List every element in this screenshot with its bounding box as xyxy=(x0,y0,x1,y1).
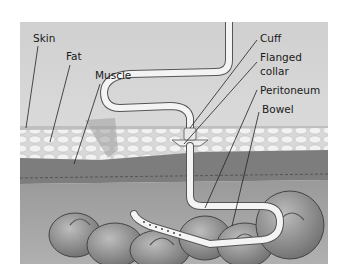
label-cuff: Cuff xyxy=(260,32,282,44)
label-fat: Fat xyxy=(66,50,82,62)
label-bowel: Bowel xyxy=(262,103,294,115)
catheter-diagram: Skin Fat Muscle Cuff Flanged collar Peri… xyxy=(0,0,345,277)
label-muscle: Muscle xyxy=(95,69,131,81)
label-flanged-collar-line2: collar xyxy=(260,65,289,77)
label-flanged-collar-line1: Flanged xyxy=(260,51,302,63)
label-peritoneum: Peritoneum xyxy=(260,84,320,96)
cuff xyxy=(184,128,196,140)
label-skin: Skin xyxy=(33,32,55,44)
